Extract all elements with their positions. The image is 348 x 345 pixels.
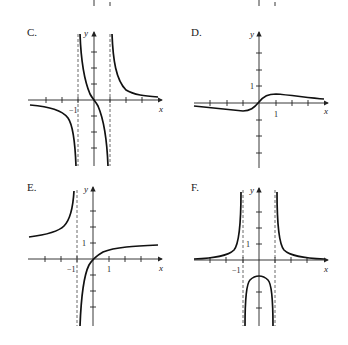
y-axis-label: y bbox=[83, 28, 88, 38]
tick-label: 1 bbox=[274, 110, 278, 119]
panel-f: F. x y 1 −1 bbox=[191, 181, 328, 326]
tick-label: −1 bbox=[67, 265, 76, 274]
panel-d: D. x y 1 1 bbox=[191, 26, 328, 168]
x-axis-label: x bbox=[323, 106, 328, 116]
x-axis-label: x bbox=[158, 263, 163, 273]
top-fragment bbox=[94, 0, 275, 6]
tick-label: −1 bbox=[69, 106, 78, 115]
tick-label: 1 bbox=[82, 239, 86, 248]
x-axis-label: x bbox=[158, 104, 163, 114]
panel-label: D. bbox=[191, 26, 202, 38]
panel-e: E. x y 1 −1 1 bbox=[27, 181, 163, 326]
panel-label: C. bbox=[27, 26, 37, 38]
figure: C. x y −1 D. x y 1 1 bbox=[0, 0, 348, 345]
tick-label: 1 bbox=[250, 82, 254, 91]
panel-label: E. bbox=[27, 181, 37, 193]
y-axis-label: y bbox=[249, 185, 254, 195]
tick-label: −1 bbox=[232, 266, 241, 275]
y-axis-label: y bbox=[83, 184, 88, 194]
panel-label: F. bbox=[191, 181, 199, 193]
x-axis-label: x bbox=[323, 264, 328, 274]
tick-label: 1 bbox=[107, 265, 111, 274]
y-axis-label: y bbox=[249, 29, 254, 39]
tick-label: 1 bbox=[246, 240, 250, 249]
panel-c: C. x y −1 bbox=[27, 26, 163, 166]
